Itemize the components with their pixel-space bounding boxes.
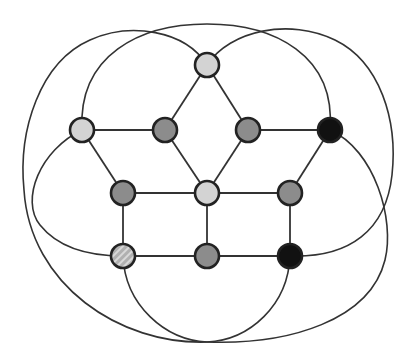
node-n2-light (70, 118, 94, 142)
arc-hatched-bottom (123, 256, 207, 342)
node-n6-medium (111, 181, 135, 205)
graph-diagram (0, 0, 414, 361)
arc-dark-bottom (207, 256, 290, 342)
inner-edges (82, 65, 330, 256)
node-n9-hatched (111, 244, 135, 268)
node-n7-light (195, 181, 219, 205)
node-n5-dark (318, 118, 342, 142)
arc-right-lower (207, 130, 388, 342)
graph-nodes (70, 53, 342, 268)
arc-left-inner (32, 130, 123, 256)
node-n10-medium (195, 244, 219, 268)
node-n8-medium (278, 181, 302, 205)
node-n1-light (195, 53, 219, 77)
node-n3-medium (153, 118, 177, 142)
node-n11-dark (278, 244, 302, 268)
node-n4-medium (236, 118, 260, 142)
arc-top-right-outer (207, 29, 393, 256)
